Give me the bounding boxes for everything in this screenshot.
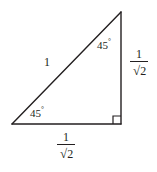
square-root-icon: √2 [132, 64, 146, 77]
fraction: 1 √2 [57, 131, 75, 160]
diagram-background [0, 0, 157, 172]
fraction-numerator: 1 [57, 131, 75, 144]
angle-label-left: 45° [30, 106, 44, 119]
radicand: 2 [140, 64, 146, 78]
fraction-bar [57, 144, 75, 145]
triangle-diagram [0, 0, 157, 172]
angle-right-value: 45 [97, 39, 108, 51]
fraction-denominator: √2 [57, 146, 75, 160]
fraction: 1 √2 [130, 48, 148, 77]
fraction-numerator: 1 [130, 48, 148, 61]
degree-symbol-icon: ° [41, 105, 44, 114]
horizontal-leg-length-label: 1 √2 [57, 131, 75, 161]
square-root-icon: √2 [59, 147, 73, 160]
angle-label-right: 45° [97, 38, 111, 51]
vertical-leg-length-label: 1 √2 [130, 48, 148, 78]
fraction-denominator: √2 [130, 63, 148, 77]
angle-left-value: 45 [30, 107, 41, 119]
hypotenuse-length-label: 1 [44, 56, 50, 68]
degree-symbol-icon: ° [108, 37, 111, 46]
radicand: 2 [67, 147, 73, 161]
fraction-bar [130, 61, 148, 62]
